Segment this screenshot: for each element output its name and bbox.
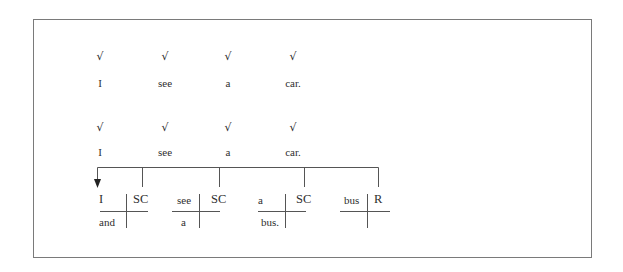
cross-3-bottom-left: bus. (261, 216, 279, 228)
arrow-down-icon (94, 179, 101, 188)
cross-1-top-right: SC (133, 193, 148, 205)
cross-4-top-right: R (374, 193, 382, 205)
connector-lines (0, 0, 623, 272)
cross-2-top-right: SC (211, 193, 226, 205)
cross-1-top-left: I (99, 193, 103, 205)
cross-3-top-left: a (258, 194, 263, 206)
cross-4-top-left: bus (344, 194, 359, 206)
cross-2-bottom-left: a (181, 216, 186, 228)
cross-3-top-right: SC (296, 193, 311, 205)
cross-1-bottom-left: and (99, 216, 115, 228)
cross-2-top-left: see (177, 194, 191, 206)
